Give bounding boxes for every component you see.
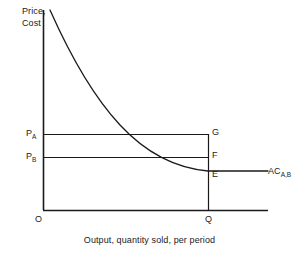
y-axis-title: Price,Cost (22, 6, 46, 29)
quantity-axis-label: Q (205, 214, 212, 225)
economics-average-cost-diagram: Price,Cost Output, quantity sold, per pe… (0, 0, 299, 253)
x-axis-title: Output, quantity sold, per period (0, 235, 299, 246)
average-cost-curve-label-subscript: A,B (281, 171, 291, 178)
average-cost-curve-label: ACA,B (268, 166, 291, 180)
point-f-label: F (212, 150, 218, 161)
price-a-label: PA (26, 128, 36, 142)
point-g-label: G (212, 127, 219, 138)
point-e-label: E (212, 169, 218, 180)
average-cost-curve-label-main: AC (268, 166, 281, 176)
y-axis-title-line1: Price, (22, 6, 46, 16)
price-b-label-subscript: B (32, 156, 36, 163)
price-a-label-subscript: A (32, 133, 36, 140)
y-axis-title-line2: Cost (22, 18, 41, 28)
average-cost-curve (50, 10, 268, 171)
plot-area (0, 0, 299, 253)
price-b-label: PB (26, 151, 36, 165)
origin-label: O (35, 214, 42, 225)
